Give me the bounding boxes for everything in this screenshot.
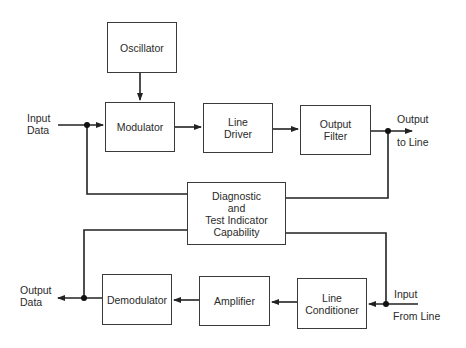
oscillator-label: Oscillator (120, 42, 164, 54)
diagnostic-label-1: Diagnostic (212, 190, 261, 202)
diagnostic-label-4: Capability (213, 226, 259, 238)
demodulator-block: Demodulator (102, 274, 172, 325)
input-data-label: Input Data (27, 112, 50, 136)
output-filter-block: Output Filter (300, 105, 371, 155)
demodulator-label: Demodulator (107, 294, 167, 306)
output-to-line-label-top: Output (397, 113, 429, 125)
line-conditioner-label-2: Conditioner (305, 304, 359, 316)
input-data-label-1: Input (27, 112, 50, 124)
diagnostic-block: Diagnostic and Test Indicator Capability (187, 182, 286, 245)
output-data-label-2: Data (20, 296, 52, 308)
amplifier-block: Amplifier (199, 276, 270, 326)
input-from-line-label-bottom: From Line (393, 310, 440, 322)
output-line-junction-dot (385, 128, 391, 134)
input-line-junction-dot (383, 301, 389, 307)
amplifier-label: Amplifier (214, 295, 255, 307)
output-data-label-1: Output (20, 284, 52, 296)
line-driver-label-1: Line (228, 116, 248, 128)
oscillator-block: Oscillator (107, 22, 177, 73)
modulator-label: Modulator (117, 121, 164, 133)
input-data-junction-dot (84, 122, 90, 128)
line-conditioner-label-1: Line (322, 292, 342, 304)
line-conditioner-block: Line Conditioner (297, 278, 367, 329)
line-driver-block: Line Driver (203, 103, 273, 153)
input-from-line-label-top: Input (394, 288, 417, 300)
diagnostic-label-2: and (228, 202, 246, 214)
output-filter-label-1: Output (320, 118, 352, 130)
modulator-block: Modulator (105, 102, 175, 152)
line-driver-label-2: Driver (224, 128, 252, 140)
output-filter-label-2: Filter (324, 130, 347, 142)
diagnostic-label-3: Test Indicator (205, 214, 267, 226)
output-to-line-label-bottom: to Line (397, 136, 429, 148)
output-data-junction-dot (81, 295, 87, 301)
output-data-label: Output Data (20, 284, 52, 308)
input-data-label-2: Data (27, 124, 50, 136)
